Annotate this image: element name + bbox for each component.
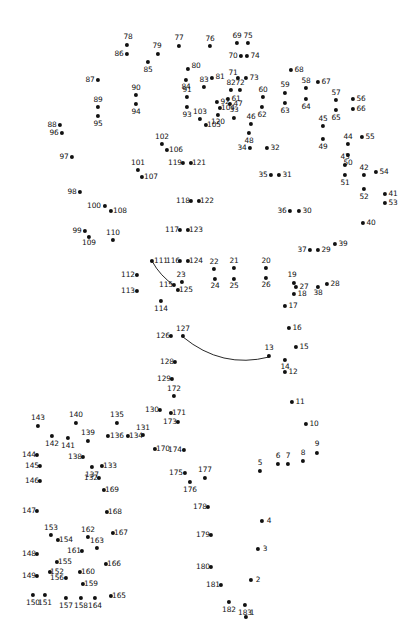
puzzle-dot[interactable] bbox=[248, 146, 252, 150]
puzzle-dot[interactable] bbox=[93, 596, 97, 600]
puzzle-dot[interactable] bbox=[362, 173, 366, 177]
puzzle-dot[interactable] bbox=[297, 209, 301, 213]
puzzle-dot[interactable] bbox=[86, 439, 90, 443]
puzzle-dot[interactable] bbox=[304, 86, 308, 90]
puzzle-dot[interactable] bbox=[249, 578, 253, 582]
puzzle-dot[interactable] bbox=[227, 600, 231, 604]
puzzle-dot[interactable] bbox=[256, 547, 260, 551]
puzzle-dot[interactable] bbox=[244, 76, 248, 80]
puzzle-dot[interactable] bbox=[304, 422, 308, 426]
puzzle-dot[interactable] bbox=[172, 394, 176, 398]
puzzle-dot[interactable] bbox=[232, 116, 236, 120]
puzzle-dot[interactable] bbox=[383, 201, 387, 205]
puzzle-dot[interactable] bbox=[383, 192, 387, 196]
puzzle-dot[interactable] bbox=[96, 114, 100, 118]
puzzle-dot[interactable] bbox=[286, 462, 290, 466]
puzzle-dot[interactable] bbox=[374, 170, 378, 174]
puzzle-dot[interactable] bbox=[277, 173, 281, 177]
puzzle-dot[interactable] bbox=[181, 334, 185, 338]
puzzle-dot[interactable] bbox=[79, 596, 83, 600]
puzzle-dot[interactable] bbox=[186, 67, 190, 71]
puzzle-dot[interactable] bbox=[208, 44, 212, 48]
puzzle-dot[interactable] bbox=[260, 105, 264, 109]
puzzle-dot[interactable] bbox=[66, 436, 70, 440]
puzzle-dot[interactable] bbox=[115, 421, 119, 425]
puzzle-dot[interactable] bbox=[267, 354, 271, 358]
puzzle-dot[interactable] bbox=[289, 68, 293, 72]
puzzle-dot[interactable] bbox=[351, 97, 355, 101]
puzzle-dot[interactable] bbox=[215, 100, 219, 104]
puzzle-dot[interactable] bbox=[321, 137, 325, 141]
puzzle-dot[interactable] bbox=[264, 266, 268, 270]
puzzle-dot[interactable] bbox=[261, 95, 265, 99]
puzzle-dot[interactable] bbox=[83, 229, 87, 233]
puzzle-dot[interactable] bbox=[177, 44, 181, 48]
puzzle-dot[interactable] bbox=[135, 289, 139, 293]
puzzle-dot[interactable] bbox=[43, 593, 47, 597]
puzzle-dot[interactable] bbox=[50, 434, 54, 438]
puzzle-dot[interactable] bbox=[235, 41, 239, 45]
puzzle-dot[interactable] bbox=[74, 421, 78, 425]
puzzle-dot[interactable] bbox=[185, 105, 189, 109]
puzzle-dot[interactable] bbox=[36, 424, 40, 428]
puzzle-dot[interactable] bbox=[288, 209, 292, 213]
puzzle-dot[interactable] bbox=[343, 173, 347, 177]
puzzle-dot[interactable] bbox=[159, 299, 163, 303]
puzzle-dot[interactable] bbox=[316, 80, 320, 84]
puzzle-dot[interactable] bbox=[260, 519, 264, 523]
puzzle-dot[interactable] bbox=[325, 282, 329, 286]
puzzle-dot[interactable] bbox=[70, 155, 74, 159]
puzzle-dot[interactable] bbox=[321, 124, 325, 128]
puzzle-dot[interactable] bbox=[183, 471, 187, 475]
puzzle-dot[interactable] bbox=[294, 345, 298, 349]
puzzle-dot[interactable] bbox=[229, 88, 233, 92]
puzzle-dot[interactable] bbox=[136, 168, 140, 172]
puzzle-dot[interactable] bbox=[362, 187, 366, 191]
puzzle-dot[interactable] bbox=[156, 52, 160, 56]
puzzle-dot[interactable] bbox=[182, 448, 186, 452]
puzzle-dot[interactable] bbox=[180, 280, 184, 284]
puzzle-dot[interactable] bbox=[247, 131, 251, 135]
puzzle-dot[interactable] bbox=[210, 76, 214, 80]
puzzle-dot[interactable] bbox=[315, 451, 319, 455]
puzzle-dot[interactable] bbox=[239, 54, 243, 58]
puzzle-dot[interactable] bbox=[283, 91, 287, 95]
puzzle-dot[interactable] bbox=[103, 204, 107, 208]
puzzle-dot[interactable] bbox=[292, 292, 296, 296]
puzzle-dot[interactable] bbox=[334, 98, 338, 102]
puzzle-dot[interactable] bbox=[198, 117, 202, 121]
puzzle-dot[interactable] bbox=[258, 469, 262, 473]
puzzle-dot[interactable] bbox=[308, 248, 312, 252]
puzzle-dot[interactable] bbox=[212, 267, 216, 271]
puzzle-dot[interactable] bbox=[134, 93, 138, 97]
puzzle-dot[interactable] bbox=[334, 108, 338, 112]
puzzle-dot[interactable] bbox=[316, 248, 320, 252]
puzzle-dot[interactable] bbox=[64, 576, 68, 580]
puzzle-dot[interactable] bbox=[361, 221, 365, 225]
puzzle-dot[interactable] bbox=[290, 400, 294, 404]
puzzle-dot[interactable] bbox=[125, 52, 129, 56]
puzzle-dot[interactable] bbox=[246, 41, 250, 45]
puzzle-dot[interactable] bbox=[96, 78, 100, 82]
puzzle-dot[interactable] bbox=[96, 105, 100, 109]
puzzle-dot[interactable] bbox=[95, 546, 99, 550]
puzzle-dot[interactable] bbox=[90, 465, 94, 469]
puzzle-dot[interactable] bbox=[188, 480, 192, 484]
puzzle-dot[interactable] bbox=[249, 122, 253, 126]
puzzle-dot[interactable] bbox=[238, 88, 242, 92]
puzzle-dot[interactable] bbox=[160, 142, 164, 146]
puzzle-dot[interactable] bbox=[304, 97, 308, 101]
puzzle-dot[interactable] bbox=[135, 273, 139, 277]
puzzle-dot[interactable] bbox=[31, 593, 35, 597]
puzzle-dot[interactable] bbox=[111, 238, 115, 242]
puzzle-dot[interactable] bbox=[269, 173, 273, 177]
puzzle-dot[interactable] bbox=[78, 190, 82, 194]
puzzle-dot[interactable] bbox=[49, 533, 53, 537]
puzzle-dot[interactable] bbox=[203, 476, 207, 480]
puzzle-dot[interactable] bbox=[64, 596, 68, 600]
puzzle-dot[interactable] bbox=[346, 142, 350, 146]
puzzle-dot[interactable] bbox=[283, 304, 287, 308]
puzzle-dot[interactable] bbox=[134, 102, 138, 106]
puzzle-dot[interactable] bbox=[265, 146, 269, 150]
puzzle-dot[interactable] bbox=[360, 135, 364, 139]
